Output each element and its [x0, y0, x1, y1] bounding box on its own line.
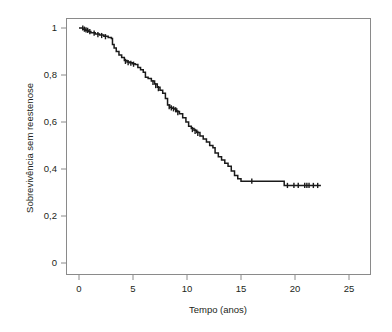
- x-tick-label: 20: [290, 283, 301, 294]
- kaplan-meier-figure: 00,20,40,60,81 0510152025 Tempo (anos) S…: [0, 0, 392, 332]
- y-tick-label: 0: [52, 257, 57, 268]
- figure-background: [0, 0, 392, 332]
- chart-canvas: 00,20,40,60,81 0510152025 Tempo (anos) S…: [0, 0, 392, 332]
- x-tick-label: 25: [344, 283, 355, 294]
- x-tick-label: 0: [76, 283, 81, 294]
- x-axis-title: Tempo (anos): [189, 304, 247, 315]
- y-tick-label: 0,8: [44, 69, 57, 80]
- x-tick-label: 5: [130, 283, 135, 294]
- x-tick-label: 10: [182, 283, 193, 294]
- y-tick-label: 0,4: [44, 163, 57, 174]
- y-tick-label: 1: [52, 22, 57, 33]
- y-axis-title: Sobrevivência sem reestenose: [24, 83, 35, 213]
- y-tick-label: 0,2: [44, 210, 57, 221]
- x-tick-label: 15: [236, 283, 247, 294]
- y-tick-label: 0,6: [44, 116, 57, 127]
